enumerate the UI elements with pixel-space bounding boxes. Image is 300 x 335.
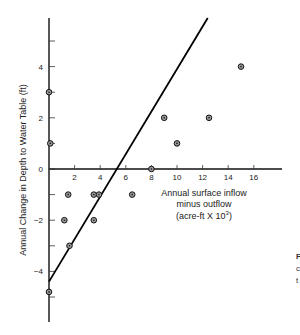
y-tick-label: −2 (34, 216, 44, 225)
regression-line (49, 18, 208, 282)
axes: 246810121416420−2−4 (34, 18, 282, 322)
y-tick-label: 2 (39, 114, 44, 123)
x-tick-label: 14 (224, 173, 233, 182)
data-point-center (49, 143, 51, 145)
x-tick-label: 8 (149, 173, 154, 182)
data-point-center (176, 143, 178, 145)
x-tick-label: 4 (98, 173, 103, 182)
data-point-center (64, 219, 66, 221)
x-tick-label: 16 (249, 173, 258, 182)
data-point-center (67, 194, 69, 196)
x-axis-title-line1: Annual surface inflow (161, 188, 247, 198)
data-point-center (163, 117, 165, 119)
x-tick-label: 2 (72, 173, 77, 182)
data-point-center (98, 194, 100, 196)
x-axis-title-line2: minus outflow (176, 199, 232, 209)
caption-char: c (296, 264, 300, 273)
data-point-center (131, 194, 133, 196)
x-tick-label: 10 (173, 173, 182, 182)
axis-labels: Annual Change in Depth to Water Table (f… (18, 84, 247, 256)
caption-char: t (296, 276, 298, 285)
x-tick-label: 6 (124, 173, 129, 182)
data-point-center (93, 219, 95, 221)
x-axis-title-line3: (acre-ft X 103) (176, 210, 232, 221)
scatter-chart: 246810121416420−2−4 Annual Change in Dep… (0, 0, 300, 335)
data-point-center (69, 245, 71, 247)
data-point-center (48, 91, 50, 93)
caption-char: F (296, 252, 300, 261)
fit-line (49, 18, 208, 282)
y-axis-title: Annual Change in Depth to Water Table (f… (18, 84, 28, 256)
data-point-center (93, 194, 95, 196)
data-point-center (208, 117, 210, 119)
data-point-center (48, 291, 50, 293)
y-tick-label: 0 (39, 165, 44, 174)
y-tick-label: −4 (34, 267, 44, 276)
data-point-center (240, 66, 242, 68)
data-point-center (151, 168, 153, 170)
y-tick-label: 4 (39, 63, 44, 72)
x-tick-label: 12 (198, 173, 207, 182)
